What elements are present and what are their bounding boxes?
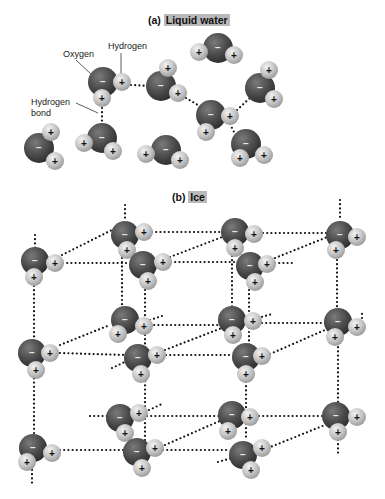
positive-charge-icon: + — [354, 322, 360, 333]
positive-charge-icon: + — [31, 272, 37, 283]
positive-charge-icon: + — [99, 93, 105, 104]
negative-charge-icon: − — [243, 351, 249, 362]
ice-hydrogen-bond — [149, 404, 162, 410]
liquid-water-molecule: −++ — [245, 61, 283, 108]
ice-water-molecule: −++ — [18, 434, 61, 471]
negative-charge-icon: − — [229, 409, 235, 420]
liquid-water-molecule: −++ — [196, 100, 239, 141]
oxygen-leader-line — [76, 60, 92, 75]
negative-charge-icon: − — [30, 442, 36, 453]
negative-charge-icon: − — [99, 132, 105, 143]
ice-water-molecule: −++ — [18, 339, 59, 379]
liquid-water-molecule: −++ — [137, 135, 189, 169]
positive-charge-icon: + — [138, 369, 144, 380]
positive-charge-icon: + — [177, 155, 183, 166]
negative-charge-icon: − — [229, 314, 235, 325]
negative-charge-icon: − — [240, 449, 246, 460]
positive-charge-icon: + — [154, 350, 160, 361]
positive-charge-icon: + — [227, 111, 233, 122]
positive-charge-icon: + — [230, 330, 236, 341]
ice-hydrogen-bond — [165, 328, 222, 350]
negative-charge-icon: − — [163, 144, 169, 155]
ice-hydrogen-bond — [170, 236, 225, 257]
ice-hydrogen-bond — [62, 230, 112, 255]
positive-charge-icon: + — [237, 153, 243, 164]
positive-charge-icon: + — [122, 428, 128, 439]
positive-charge-icon: + — [225, 426, 231, 437]
positive-charge-icon: + — [141, 227, 147, 238]
positive-charge-icon: + — [333, 245, 339, 256]
ice-water-molecule: −++ — [21, 247, 64, 286]
ice-water-molecule: −++ — [221, 218, 263, 257]
ice-water-molecule: −++ — [322, 402, 366, 441]
positive-charge-icon: + — [261, 150, 267, 161]
ice-hydrogen-bond — [60, 353, 125, 355]
positive-charge-icon: + — [33, 365, 39, 376]
ice-hydrogen-bond — [275, 236, 330, 258]
ice-water-molecule: −++ — [124, 344, 166, 383]
negative-charge-icon: − — [257, 82, 263, 93]
ice-water-molecule: −++ — [229, 439, 271, 479]
positive-charge-icon: + — [203, 127, 209, 138]
negative-charge-icon: − — [158, 80, 164, 91]
positive-charge-icon: + — [160, 257, 166, 268]
negative-charge-icon: − — [135, 352, 141, 363]
positive-charge-icon: + — [110, 146, 116, 157]
negative-charge-icon: − — [140, 259, 146, 270]
positive-charge-icon: + — [332, 332, 338, 343]
positive-charge-icon: + — [24, 457, 30, 468]
positive-charge-icon: + — [165, 63, 171, 74]
positive-charge-icon: + — [196, 47, 202, 58]
negative-charge-icon: − — [122, 229, 128, 240]
positive-charge-icon: + — [115, 329, 121, 340]
positive-charge-icon: + — [264, 259, 270, 270]
negative-charge-icon: − — [117, 412, 123, 423]
positive-charge-icon: + — [175, 88, 181, 99]
positive-charge-icon: + — [152, 443, 158, 454]
ice-water-molecule: −++ — [109, 306, 153, 343]
positive-charge-icon: + — [248, 465, 254, 476]
negative-charge-icon: − — [337, 229, 343, 240]
positive-charge-icon: + — [52, 258, 58, 269]
positive-charge-icon: + — [136, 408, 142, 419]
positive-charge-icon: + — [231, 50, 237, 61]
positive-charge-icon: + — [139, 463, 145, 474]
positive-charge-icon: + — [119, 77, 125, 88]
negative-charge-icon: − — [333, 410, 339, 421]
ice-water-molecule: −++ — [326, 221, 366, 259]
ice-hydrogen-bond — [112, 362, 125, 368]
liquid-water-molecule: −++ — [75, 123, 122, 160]
positive-charge-icon: + — [49, 448, 55, 459]
ice-water-molecule: −++ — [324, 308, 366, 346]
ice-water-molecule: −++ — [232, 343, 271, 383]
negative-charge-icon: − — [100, 76, 106, 87]
positive-charge-icon: + — [259, 351, 265, 362]
positive-charge-icon: + — [143, 149, 149, 160]
ice-hydrogen-bond — [165, 420, 222, 445]
ice-water-molecule: −++ — [236, 252, 276, 291]
positive-charge-icon: + — [271, 94, 277, 105]
positive-charge-icon: + — [250, 316, 256, 327]
negative-charge-icon: − — [243, 138, 249, 149]
negative-charge-icon: − — [122, 314, 128, 325]
negative-charge-icon: − — [208, 109, 214, 120]
positive-charge-icon: + — [247, 412, 253, 423]
positive-charge-icon: + — [259, 443, 265, 454]
ice-hydrogen-bond — [268, 425, 325, 448]
positive-charge-icon: + — [141, 321, 147, 332]
positive-charge-icon: + — [48, 127, 54, 138]
liquid-water-molecule: −++ — [24, 123, 64, 170]
liquid-water-molecule: −++ — [190, 33, 243, 64]
negative-charge-icon: − — [247, 260, 253, 271]
positive-charge-icon: + — [354, 232, 360, 243]
positive-charge-icon: + — [252, 277, 258, 288]
positive-charge-icon: + — [335, 427, 341, 438]
negative-charge-icon: − — [215, 42, 221, 53]
water-molecules: −++−++−++−++−++−++−++−++−++−++−++−++−++−… — [18, 33, 366, 479]
positive-charge-icon: + — [124, 245, 130, 256]
ice-hydrogen-bond — [60, 325, 110, 345]
water-molecule-diagram: −++−++−++−++−++−++−++−++−++−++−++−++−++−… — [0, 0, 385, 499]
liquid-water-molecule: −++ — [231, 129, 273, 167]
liquid-water-molecule: −++ — [88, 67, 131, 107]
ice-hydrogen-bond — [150, 316, 162, 320]
